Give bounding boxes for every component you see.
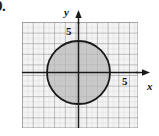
x-axis-tick-label-5: 5 — [122, 76, 128, 87]
y-axis-arrow-icon — [75, 10, 81, 18]
x-axis-arrow-icon — [142, 69, 150, 75]
axis-arrows — [0, 0, 159, 136]
math-figure: 9. y x 5 5 — [0, 0, 159, 136]
y-axis-tick-label-5: 5 — [66, 26, 72, 37]
x-axis-label: x — [147, 81, 153, 92]
y-axis-label: y — [64, 7, 69, 18]
